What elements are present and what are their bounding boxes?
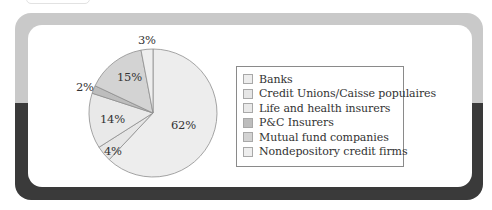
legend-item: Nondepository credit firms	[243, 145, 403, 160]
legend-item: Banks	[243, 72, 403, 87]
legend-item: P&C Insurers	[243, 116, 403, 131]
slice-label-life-health: 14%	[100, 112, 125, 126]
top-tab-outline	[26, 0, 90, 4]
legend-label: Banks	[259, 73, 293, 86]
legend-swatch	[243, 118, 253, 128]
slice-label-nondepository: 3%	[138, 33, 156, 47]
legend-swatch	[243, 103, 253, 113]
legend-item: Mutual fund companies	[243, 130, 403, 145]
legend-swatch	[243, 147, 253, 157]
legend-item: Credit Unions/Caisse populaires	[243, 87, 403, 102]
chart-legend: Banks Credit Unions/Caisse populaires Li…	[236, 66, 404, 167]
legend-swatch	[243, 74, 253, 84]
slice-label-mutual: 15%	[117, 70, 142, 84]
legend-label: Life and health insurers	[259, 102, 390, 115]
legend-swatch	[243, 132, 253, 142]
legend-label: Mutual fund companies	[259, 131, 389, 144]
slice-label-pc: 2%	[76, 80, 94, 94]
legend-label: Nondepository credit firms	[259, 145, 407, 158]
slice-label-credit-unions: 4%	[104, 144, 122, 158]
slice-label-banks: 62%	[171, 118, 196, 132]
legend-swatch	[243, 89, 253, 99]
legend-item: Life and health insurers	[243, 101, 403, 116]
legend-label: Credit Unions/Caisse populaires	[259, 87, 436, 100]
legend-label: P&C Insurers	[259, 116, 334, 129]
